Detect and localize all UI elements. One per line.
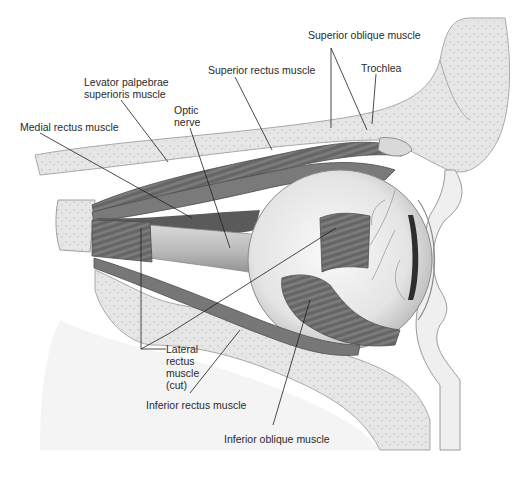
annulus-of-zinn [56,200,95,252]
eye-muscle-diagram: Superior oblique muscle Trochlea Superio… [0,0,523,487]
label-optic-nerve: Optic nerve [174,104,200,128]
optic-nerve-shape [150,225,265,275]
label-inferior-oblique-muscle: Inferior oblique muscle [224,433,330,445]
label-superior-rectus-muscle: Superior rectus muscle [208,64,315,76]
lateral-rectus-stump [92,220,152,262]
label-levator-palpebrae: Levator palpebrae superioris muscle [84,76,169,100]
label-medial-rectus-muscle: Medial rectus muscle [20,121,119,133]
label-inferior-rectus-muscle: Inferior rectus muscle [146,399,246,411]
label-superior-oblique-muscle: Superior oblique muscle [308,29,421,41]
label-trochlea: Trochlea [361,62,401,74]
lateral-rectus-insertion [320,213,370,272]
label-lateral-rectus-muscle: Lateral rectus muscle (cut) [166,343,199,391]
